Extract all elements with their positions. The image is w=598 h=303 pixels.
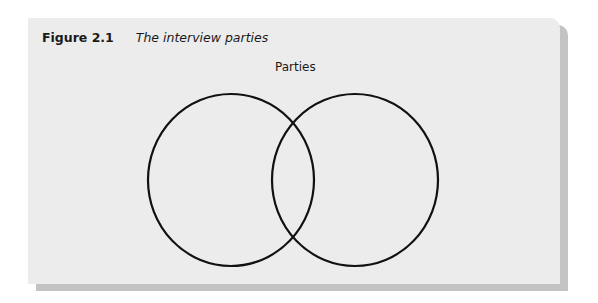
venn-circle-right [272,94,438,266]
venn-circle-left [148,94,314,266]
venn-diagram [0,0,598,303]
